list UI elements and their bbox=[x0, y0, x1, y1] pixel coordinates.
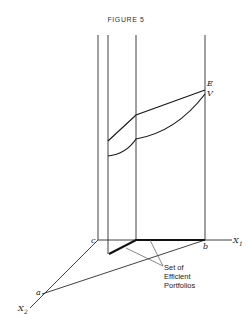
leader-line-1 bbox=[126, 248, 163, 266]
label-x1: X bbox=[232, 236, 239, 245]
label-x2: X bbox=[17, 304, 24, 313]
annotation-line-2: Efficient bbox=[164, 272, 191, 281]
efficient-set-path bbox=[109, 240, 205, 254]
annotation-line-3: Portfolios bbox=[164, 281, 196, 290]
label-x2-sub: 2 bbox=[23, 308, 28, 315]
figure-canvas: FIGURE 5 E V c b a X 1 X 2 Set of Effici… bbox=[0, 0, 252, 329]
label-b: b bbox=[203, 242, 208, 251]
label-x1-sub: 1 bbox=[239, 240, 243, 247]
annotation-line-1: Set of bbox=[164, 263, 185, 272]
x2-axis bbox=[30, 240, 98, 308]
figure-title: FIGURE 5 bbox=[107, 16, 144, 23]
leader-line-2 bbox=[150, 240, 163, 266]
label-c: c bbox=[91, 236, 96, 245]
variance-curve bbox=[108, 94, 205, 156]
label-a: a bbox=[36, 288, 41, 297]
label-E: E bbox=[206, 79, 213, 88]
label-V: V bbox=[207, 89, 214, 98]
